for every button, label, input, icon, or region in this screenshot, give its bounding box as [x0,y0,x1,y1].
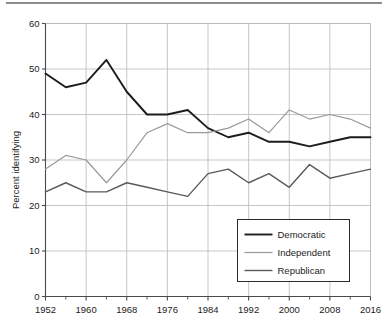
x-tick-label: 2000 [279,304,300,315]
y-tick-label: 60 [29,18,40,29]
x-tick-label: 1992 [238,304,259,315]
x-tick-label: 1968 [116,304,137,315]
legend-label-republican: Republican [278,265,326,276]
chart-figure: 0102030405060195219601968197619841992200… [0,0,388,334]
x-tick-label: 1952 [35,304,56,315]
y-tick-label: 40 [29,109,40,120]
y-tick-label: 20 [29,200,40,211]
y-tick-label: 30 [29,154,40,165]
legend-label-independent: Independent [278,247,331,258]
x-tick-label: 2016 [360,304,381,315]
y-tick-label: 0 [34,291,39,302]
axis-title-layer: Percent identifying [10,131,21,209]
x-tick-label: 1960 [76,304,97,315]
x-tick-label: 2008 [319,304,340,315]
x-tick-label: 1984 [197,304,218,315]
chart-legend: DemocraticIndependentRepublican [238,220,350,282]
x-tick-label: 1976 [157,304,178,315]
top-divider-rule [6,2,382,4]
legend-label-democratic: Democratic [278,229,326,240]
y-tick-label: 50 [29,63,40,74]
y-axis-title: Percent identifying [10,131,21,209]
party-identification-line-chart: 0102030405060195219601968197619841992200… [0,0,388,334]
y-tick-label: 10 [29,245,40,256]
